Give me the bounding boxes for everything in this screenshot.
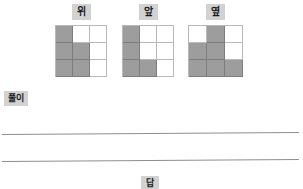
- grid-cell: [157, 43, 174, 60]
- solution-writing-line: [2, 132, 299, 135]
- solution-label: 풀이: [4, 91, 28, 106]
- grid-cell: [73, 60, 90, 77]
- grid-cell: [90, 60, 107, 77]
- grid-cell: [73, 43, 90, 60]
- grid-front-view: [122, 25, 174, 77]
- grid-cell: [189, 43, 207, 60]
- view-label-side: 옆: [206, 4, 225, 20]
- grid-cell: [123, 60, 140, 77]
- grid-cell: [90, 43, 107, 60]
- grid-cell: [225, 43, 243, 60]
- grid-cell: [56, 43, 73, 60]
- worksheet-page: 위 앞 옆 풀이 답: [0, 0, 303, 189]
- solution-writing-line: [2, 159, 299, 162]
- grid-cell: [207, 43, 225, 60]
- grid-top-view: [55, 25, 107, 77]
- grid-cell: [56, 26, 73, 43]
- view-block-front: 앞: [115, 4, 181, 77]
- grid-cell: [157, 26, 174, 43]
- grid-cell: [56, 60, 73, 77]
- grid-cell: [225, 60, 243, 77]
- grid-cell: [140, 26, 157, 43]
- grid-cell: [189, 26, 207, 43]
- grid-cell: [225, 26, 243, 43]
- grid-cell: [207, 26, 225, 43]
- grid-side-view: [188, 25, 243, 77]
- view-block-side: 옆: [182, 4, 248, 77]
- grid-cell: [207, 60, 225, 77]
- views-row: 위 앞 옆: [0, 0, 303, 88]
- grid-cell: [123, 26, 140, 43]
- grid-cell: [157, 60, 174, 77]
- grid-cell: [140, 43, 157, 60]
- grid-cell: [189, 60, 207, 77]
- grid-cell: [73, 26, 90, 43]
- grid-cell: [140, 60, 157, 77]
- grid-cell: [123, 43, 140, 60]
- view-block-top: 위: [48, 4, 114, 77]
- answer-label: 답: [141, 176, 159, 189]
- grid-cell: [90, 26, 107, 43]
- view-label-top: 위: [72, 4, 91, 20]
- view-label-front: 앞: [139, 4, 158, 20]
